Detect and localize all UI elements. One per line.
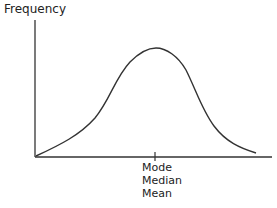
distribution-chart (0, 0, 277, 208)
mean-label: Mean (142, 187, 182, 200)
center-measures-labels: Mode Median Mean (142, 161, 182, 200)
mode-label: Mode (142, 161, 182, 174)
median-label: Median (142, 174, 182, 187)
normal-curve (36, 48, 256, 156)
